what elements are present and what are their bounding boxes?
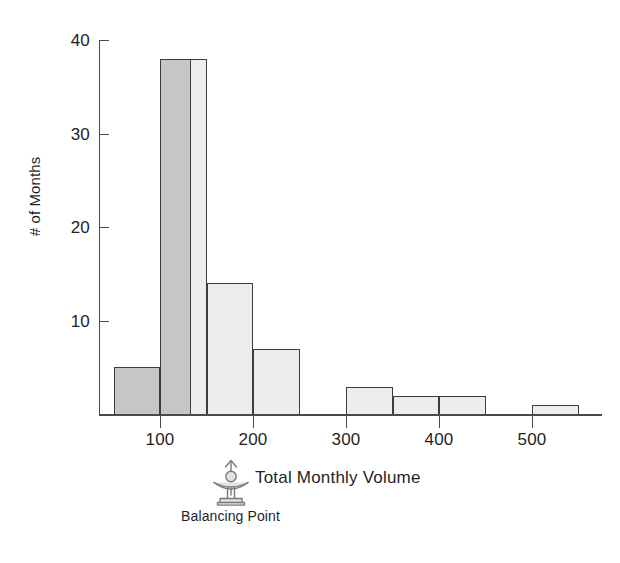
x-tick-mark-200	[253, 415, 254, 428]
bar-400-450	[439, 396, 486, 415]
x-tick-label-300: 300	[316, 430, 376, 450]
bar-200-250	[253, 349, 300, 415]
bar-150-200	[207, 283, 254, 415]
y-tick-label-10: 10	[48, 312, 90, 332]
bar-300-350	[346, 387, 393, 415]
x-tick-label-200: 200	[223, 430, 283, 450]
y-tick-label-20: 20	[48, 218, 90, 238]
x-tick-label-400: 400	[409, 430, 469, 450]
x-tick-label-500: 500	[502, 430, 562, 450]
x-tick-mark-400	[439, 415, 440, 428]
bar-350-400	[393, 396, 440, 415]
y-tick-mark-40	[99, 40, 109, 41]
bar-100-150-light-segment	[190, 59, 207, 415]
y-tick-mark-10	[99, 321, 109, 322]
x-tick-mark-500	[532, 415, 533, 428]
x-axis-line	[99, 414, 602, 416]
y-tick-mark-20	[99, 227, 109, 228]
fulcrum-balance-icon	[208, 455, 254, 507]
x-tick-mark-100	[160, 415, 161, 428]
histogram-figure: # of Months 40 30 20 10 100 200 300 400 …	[0, 0, 620, 563]
y-axis-title: # of Months	[26, 137, 43, 257]
x-tick-label-100: 100	[130, 430, 190, 450]
y-tick-label-30: 30	[48, 125, 90, 145]
y-tick-mark-30	[99, 134, 109, 135]
y-tick-label-40: 40	[48, 31, 90, 51]
bar-50-100	[114, 367, 161, 415]
balancing-point-annotation: Balancing Point	[158, 455, 303, 524]
x-tick-mark-300	[346, 415, 347, 428]
balancing-point-label: Balancing Point	[158, 508, 303, 524]
